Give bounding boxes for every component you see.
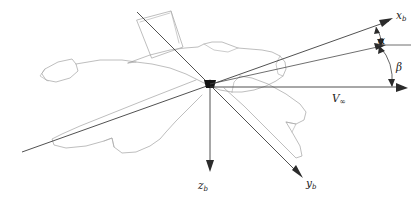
x-axis-subscript: b <box>402 15 406 23</box>
x-body-axis-line <box>22 21 389 152</box>
near-wing-outline <box>52 80 202 153</box>
velocity-subscript-infinity: ∞ <box>340 97 346 106</box>
fin-leading-edge <box>140 13 170 22</box>
freestream-velocity-label: V∞ <box>332 93 346 105</box>
y-body-axis-arrowhead <box>292 165 303 178</box>
x-body-axis-label: xb <box>396 10 406 23</box>
velocity-symbol: V <box>332 92 340 104</box>
y-body-axis-line <box>137 12 299 174</box>
far-wing-outline <box>224 76 306 158</box>
z-body-axis-arrowhead <box>206 160 214 172</box>
horizontal-stabilizer-tip <box>40 69 48 81</box>
freestream-velocity-arrowhead <box>396 83 408 92</box>
aircraft-outline-group <box>40 11 306 158</box>
z-axis-subscript: b <box>204 185 208 193</box>
y-body-axis-label: yb <box>306 178 316 191</box>
velocity-projection-line <box>210 46 382 84</box>
diagram-canvas <box>0 0 420 203</box>
beta-arc-arrowhead-bottom <box>388 79 395 87</box>
angle-of-attack-label: α <box>378 35 385 46</box>
x-body-axis-arrowhead <box>379 18 393 27</box>
rudder-hinge-line <box>171 11 179 43</box>
canopy-outline <box>204 44 238 52</box>
sideslip-angle-label: β <box>396 62 402 73</box>
aircraft-body-axes-figure: xb yb zb α β V∞ <box>0 0 420 203</box>
near-wing-flap-notch <box>104 138 114 147</box>
y-axis-subscript: b <box>312 183 316 191</box>
horizontal-stabilizer-outline <box>42 59 78 82</box>
z-body-axis-label: zb <box>198 180 208 193</box>
tail-boom-outline <box>76 60 136 64</box>
fuselage-belly-outline <box>128 62 232 92</box>
